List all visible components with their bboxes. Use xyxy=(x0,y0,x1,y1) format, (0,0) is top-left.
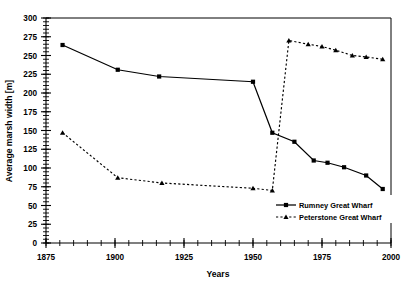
y-tick-label: 100 xyxy=(23,164,37,173)
data-point-marker-square xyxy=(60,43,64,47)
y-tick-label: 75 xyxy=(28,183,38,192)
y-tick-label: 25 xyxy=(28,220,38,229)
x-tick-label: 1875 xyxy=(37,253,56,262)
data-point-marker-square xyxy=(270,131,274,135)
x-tick-label: 1925 xyxy=(175,253,194,262)
y-tick-label: 250 xyxy=(23,52,37,61)
x-axis-title: Years xyxy=(207,269,230,279)
data-point-marker-triangle xyxy=(159,180,164,185)
y-tick-label: 150 xyxy=(23,127,37,136)
x-tick-label: 1950 xyxy=(244,253,263,262)
y-tick-label: 300 xyxy=(23,14,37,23)
chart-legend: Rumney Great WharfPeterstone Great Wharf xyxy=(270,195,392,223)
y-tick-label: 200 xyxy=(23,89,37,98)
data-point-marker-triangle xyxy=(286,38,291,43)
axis-tick-labels: 0255075100125150175200225250275300187519… xyxy=(23,14,400,262)
data-point-marker-triangle xyxy=(115,175,120,180)
series-peterstone xyxy=(60,38,385,193)
data-point-marker-square xyxy=(342,165,346,169)
y-tick-label: 50 xyxy=(28,202,38,211)
data-point-marker-square xyxy=(116,68,120,72)
x-tick-label: 1900 xyxy=(106,253,125,262)
data-point-marker-square xyxy=(325,161,329,165)
y-axis-title: Average marsh width [m] xyxy=(4,80,14,182)
x-tick-label: 2000 xyxy=(382,253,401,262)
chart-canvas: 0255075100125150175200225250275300187519… xyxy=(0,0,413,286)
data-point-marker-square xyxy=(381,187,385,191)
chart-figure: 0255075100125150175200225250275300187519… xyxy=(0,0,413,286)
y-tick-label: 0 xyxy=(32,239,37,248)
series-rumney xyxy=(60,43,384,191)
y-tick-label: 225 xyxy=(23,70,37,79)
series-line xyxy=(63,45,383,189)
data-point-marker-square xyxy=(157,74,161,78)
data-series-group xyxy=(60,38,385,193)
data-point-marker-triangle xyxy=(60,130,65,135)
data-point-marker-square xyxy=(364,173,368,177)
data-point-marker-square xyxy=(284,203,288,207)
y-tick-label: 275 xyxy=(23,33,37,42)
x-tick-label: 1975 xyxy=(313,253,332,262)
data-point-marker-triangle xyxy=(306,42,311,47)
series-line xyxy=(63,41,383,191)
data-point-marker-square xyxy=(251,80,255,84)
y-tick-label: 175 xyxy=(23,108,37,117)
data-point-marker-square xyxy=(312,158,316,162)
data-point-marker-square xyxy=(292,140,296,144)
data-point-marker-triangle xyxy=(319,44,324,49)
legend-label: Rumney Great Wharf xyxy=(299,201,373,210)
legend-label: Peterstone Great Wharf xyxy=(299,213,382,222)
y-tick-label: 125 xyxy=(23,145,37,154)
